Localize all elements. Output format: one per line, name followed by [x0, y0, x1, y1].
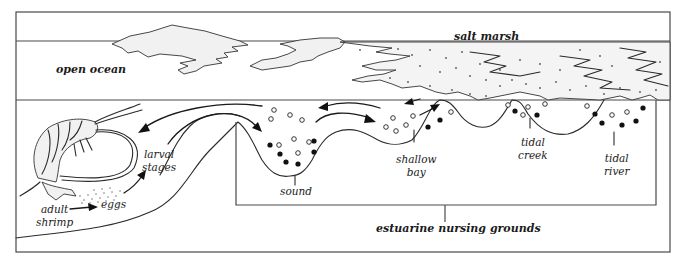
- label-larval-stages: larval stages: [142, 148, 176, 174]
- label-shallow-bay: shallow bay: [396, 153, 436, 179]
- label-sound: sound: [280, 185, 312, 198]
- label-salt-marsh: salt marsh: [454, 30, 519, 43]
- label-shallow-line1: shallow: [396, 153, 436, 166]
- label-adult-line2: shrimp: [36, 216, 73, 229]
- shrimp-lifecycle-diagram: open ocean salt marsh larval stages adul…: [0, 0, 683, 266]
- label-open-ocean: open ocean: [56, 63, 126, 76]
- arrow-larval-to-sound: [168, 114, 256, 144]
- larvae-markers: [269, 102, 630, 156]
- juvenile-markers: [267, 105, 645, 166]
- label-creek-line1: tidal: [518, 136, 548, 149]
- label-river-line2: river: [604, 165, 630, 178]
- label-adult-shrimp: adult shrimp: [36, 203, 73, 229]
- arrow-to-larval-stages: [144, 104, 262, 128]
- label-tidal-creek: tidal creek: [518, 136, 548, 162]
- label-eggs: eggs: [101, 198, 126, 211]
- label-shallow-line2: bay: [396, 166, 436, 179]
- arrow-sound-to-bay: [316, 113, 370, 122]
- shrimp-icon: [20, 104, 142, 200]
- diagram-canvas: [0, 0, 683, 266]
- arrow-bay-to-marsh: [420, 108, 434, 115]
- salt-marsh-region: [340, 42, 670, 100]
- label-tidal-river: tidal river: [604, 152, 630, 178]
- label-adult-line1: adult: [36, 203, 73, 216]
- distant-island-icon: [112, 25, 345, 74]
- label-larval-line2: stages: [142, 161, 176, 174]
- arrow-eggs-to-larval: [124, 176, 142, 193]
- arrow-bay-to-sound: [326, 103, 380, 108]
- label-larval-line1: larval: [142, 148, 176, 161]
- label-estuarine-nursing-grounds: estuarine nursing grounds: [376, 222, 541, 235]
- label-creek-line2: creek: [518, 149, 548, 162]
- label-river-line1: tidal: [604, 152, 630, 165]
